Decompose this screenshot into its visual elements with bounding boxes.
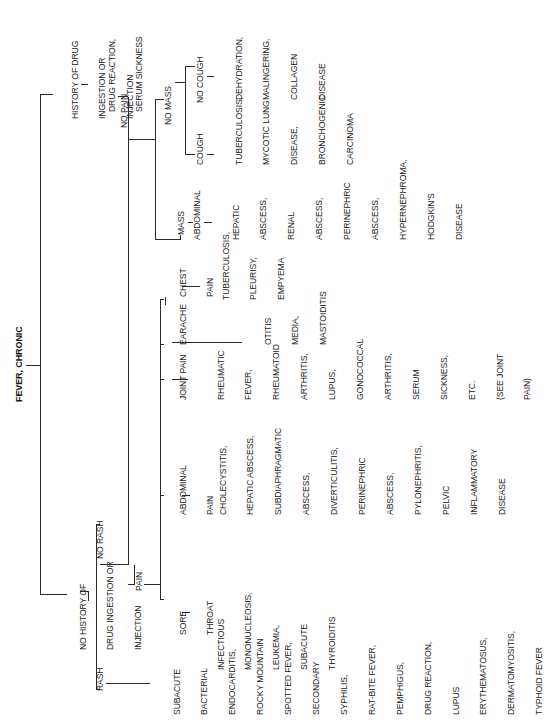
result-line: MALINGERING, <box>262 37 271 100</box>
result-line: HYPERNEPHROMA, <box>399 160 408 240</box>
result-line: GONOCOCCAL <box>356 339 365 400</box>
result-line: FEVER, <box>244 339 253 400</box>
connector <box>155 239 181 240</box>
connector <box>160 300 161 600</box>
result-line: SUBACUTE <box>173 631 182 715</box>
connector <box>40 95 41 595</box>
result-line: ABSCESS, <box>371 160 380 240</box>
result-line: PERINEPHRIC <box>358 428 367 515</box>
connector <box>26 365 40 366</box>
result-line: LUPUS, <box>328 339 337 400</box>
result-line: INFLAMMATORY <box>470 428 479 515</box>
node-abdominal-mass: ABDOMINAL <box>193 190 202 240</box>
connector <box>180 235 181 240</box>
result-line: TYPHOID FEVER <box>535 631 544 715</box>
connector <box>204 222 212 223</box>
node-rash: RASH <box>96 668 105 691</box>
connector <box>165 297 166 305</box>
connector <box>128 139 155 140</box>
node-no-history-drug-ingestion: NO HISTORY OF DRUG INGESTION OR INJECTIO… <box>60 561 162 650</box>
result-line: DRUG REACTION, <box>424 631 433 715</box>
node-no-mass: NO MASS <box>164 86 173 125</box>
connector <box>185 67 186 155</box>
result-line: INFECTIOUS <box>217 593 226 670</box>
connector <box>155 99 164 100</box>
connector <box>172 342 242 343</box>
result-line: ETC. <box>468 339 477 400</box>
connector <box>207 154 214 155</box>
connector <box>172 379 188 380</box>
connector <box>182 495 190 496</box>
result-line: SUBDIAPHRAGMATIC <box>274 428 283 515</box>
connector <box>144 584 160 585</box>
result-line: ARTHRITIS, <box>300 339 309 400</box>
node-no-cough: NO COUGH <box>196 57 205 103</box>
label-line: NO HISTORY OF <box>79 561 88 650</box>
node-cough: COUGH <box>196 134 205 166</box>
result-line: DIVERTICULITIS, <box>330 428 339 515</box>
connector <box>182 286 200 287</box>
result-line: PELVIC <box>442 428 451 515</box>
result-line: LUPUS <box>452 631 461 715</box>
result-joint-pain: RHEUMATIC FEVER, RHEUMATOID ARTHRITIS, L… <box>198 339 547 400</box>
node-pain: PAIN <box>135 572 144 591</box>
connector <box>81 84 88 85</box>
label-line: DRUG INGESTION OR <box>106 561 115 650</box>
result-line: ABSCESS, <box>386 428 395 515</box>
result-line: DISEASE <box>318 37 327 100</box>
node-no-rash: NO RASH <box>96 521 105 559</box>
connector <box>88 591 89 601</box>
result-chest-pain: TUBERCULOSIS, PLEURISY, EMPYEMA <box>203 232 305 300</box>
label-line: HISTORY OF DRUG <box>71 41 80 119</box>
result-line: DISEASE, <box>290 95 299 165</box>
result-line: RHEUMATIC <box>217 339 226 400</box>
connector <box>185 154 195 155</box>
result-line: MYCOTIC LUNG <box>262 95 271 165</box>
root-node-fever-chronic: FEVER, CHRONIC <box>15 326 24 402</box>
label-line: EARACHE <box>179 304 188 345</box>
result-line: MASTOIDITIS <box>319 291 328 345</box>
result-line: HODGKIN'S <box>427 160 436 240</box>
result-no-cough: DEHYDRATION, MALINGERING, COLLAGEN DISEA… <box>216 37 346 100</box>
result-line: MONONUCLEOSIS, <box>244 593 253 670</box>
result-line: PEMPHIGUS, <box>396 631 405 715</box>
connector <box>128 97 129 565</box>
result-line: SUBACUTE <box>300 593 309 670</box>
node-earache: EARACHE <box>160 304 206 345</box>
connector <box>160 299 164 300</box>
result-line: PLEURISY, <box>249 232 258 300</box>
connector <box>106 683 150 684</box>
result-line: CHOLECYSTITIS, <box>219 428 228 515</box>
result-line: ARTHRITIS, <box>384 339 393 400</box>
label-line: SORE <box>179 601 188 635</box>
result-line: TUBERCULOSIS, <box>222 232 231 300</box>
result-line: DRUG REACTION, <box>108 37 117 112</box>
result-line: HEPATIC ABSCESS, <box>246 428 255 515</box>
result-line: BRONCHOGENIC <box>318 95 327 165</box>
node-mass: MASS <box>177 211 186 235</box>
result-line: DISEASE <box>455 160 464 240</box>
result-line: SICKNESS, <box>440 339 449 400</box>
node-no-pain: NO PAIN <box>120 94 129 128</box>
result-line: RENAL <box>287 160 296 240</box>
result-sore-throat: INFECTIOUS MONONUCLEOSIS, LEUKEMIA, SUBA… <box>198 593 356 670</box>
result-line: PERINEPHRIC <box>343 160 352 240</box>
label-line: JOINT PAIN <box>179 355 188 400</box>
result-cough: TUBERCULOSIS, MYCOTIC LUNG DISEASE, BRON… <box>216 95 374 165</box>
result-line: ABSCESS, <box>315 160 324 240</box>
result-line: SERUM <box>412 339 421 400</box>
result-line: PYLONEPHRITIS, <box>414 428 423 515</box>
result-line: SERUM SICKNESS <box>135 37 144 112</box>
result-abdominal-pain: CHOLECYSTITIS, HEPATIC ABSCESS, SUBDIAPH… <box>200 428 525 515</box>
result-line: TUBERCULOSIS, <box>235 95 244 165</box>
connector <box>185 66 195 67</box>
connector <box>155 100 156 240</box>
connector <box>182 612 190 613</box>
result-line: HEPATIC <box>232 160 241 240</box>
result-line: RAT-BITE FEVER, <box>368 631 377 715</box>
result-line: ABSCESS, <box>259 160 268 240</box>
result-line: DERMATOMYOSITIS, <box>507 631 516 715</box>
result-line: DISEASE <box>498 428 507 515</box>
result-line: COLLAGEN <box>290 37 299 100</box>
